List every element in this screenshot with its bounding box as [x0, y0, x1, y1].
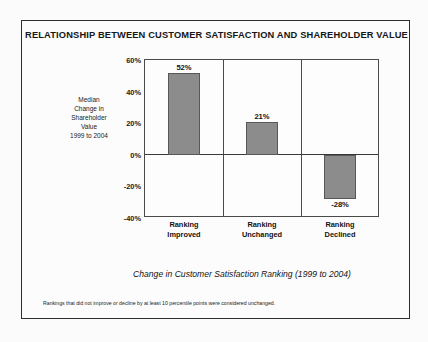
chart-page: RELATIONSHIP BETWEEN CUSTOMER SATISFACTI… — [0, 0, 428, 342]
y-axis-title-line-5: 1999 to 2004 — [39, 131, 139, 140]
category-label-line-1: Ranking — [325, 220, 356, 230]
bar-ranking-declined — [324, 155, 356, 199]
bar-ranking-unchanged — [246, 122, 278, 155]
chart-frame: RELATIONSHIP BETWEEN CUSTOMER SATISFACTI… — [21, 20, 410, 319]
y-axis-title-line-3: Shareholder — [39, 113, 139, 122]
y-tick-40: 40% — [126, 87, 141, 96]
bar-ranking-improved — [168, 73, 200, 155]
category-label-ranking-unchanged: Ranking Unchanged — [242, 220, 282, 239]
y-tick-60: 60% — [126, 56, 141, 65]
plot-area: 60% 40% 20% 0% -20% -40% 52% 21% -28% Ra… — [144, 59, 379, 217]
y-axis-title-line-1: Median — [39, 95, 139, 104]
category-label-line-2: Improved — [167, 230, 200, 240]
bar-label-ranking-unchanged: 21% — [254, 112, 269, 121]
bar-label-ranking-declined: -28% — [331, 200, 349, 209]
y-tick-neg20: -20% — [124, 182, 141, 191]
bar-label-ranking-improved: 52% — [176, 63, 191, 72]
category-divider-1 — [223, 60, 224, 216]
y-tick-0: 0% — [130, 150, 141, 159]
category-label-line-1: Ranking — [167, 220, 200, 230]
category-label-ranking-improved: Ranking Improved — [167, 220, 200, 239]
chart-title: RELATIONSHIP BETWEEN CUSTOMER SATISFACTI… — [22, 30, 411, 40]
y-axis-title: Median Change in Shareholder Value 1999 … — [39, 95, 139, 140]
y-axis-title-line-2: Change in — [39, 104, 139, 113]
y-tick-neg40: -40% — [124, 214, 141, 223]
x-axis-caption: Change in Customer Satisfaction Ranking … — [82, 269, 402, 279]
category-label-line-2: Declined — [325, 230, 356, 240]
category-label-line-1: Ranking — [242, 220, 282, 230]
y-tick-20: 20% — [126, 119, 141, 128]
category-label-ranking-declined: Ranking Declined — [325, 220, 356, 239]
y-axis-title-line-4: Value — [39, 122, 139, 131]
chart-footnote: Rankings that did not improve or decline… — [43, 300, 383, 306]
category-divider-2 — [301, 60, 302, 216]
category-label-line-2: Unchanged — [242, 230, 282, 240]
